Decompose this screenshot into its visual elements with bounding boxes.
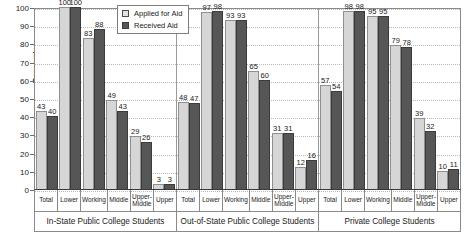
bar-received: 60 <box>259 80 270 189</box>
bar-applied: 93 <box>225 20 236 189</box>
x-axis-category-labels: TotalLowerWorkingMiddleUpper-MiddleUpper… <box>34 190 461 212</box>
bar-received: 40 <box>47 116 58 189</box>
bar-category: 6560 <box>248 9 272 189</box>
bar-value-label: 47 <box>190 95 198 103</box>
y-tick-label: 90 <box>20 22 29 31</box>
x-axis-tick-label: Middle <box>391 190 414 211</box>
bar-applied: 49 <box>106 100 117 189</box>
x-axis-tick-label: Lower <box>199 190 222 211</box>
bar-value-label: 78 <box>403 39 411 47</box>
bar-applied: 43 <box>36 111 47 189</box>
bar-received: 16 <box>306 160 317 189</box>
bar-value-label: 97 <box>203 4 211 12</box>
bar-pair: 3932 <box>414 118 436 189</box>
bar-pair: 33 <box>153 184 175 189</box>
x-axis-tick-label: Working <box>364 190 391 211</box>
bar-value-label: 100 <box>69 0 82 7</box>
bar-pair: 9898 <box>343 11 365 189</box>
x-axis-tick-label: Upper <box>153 190 176 211</box>
bar-pair: 9595 <box>367 16 389 189</box>
bar-received: 98 <box>354 11 365 189</box>
legend-swatch-applied-icon <box>122 10 129 17</box>
x-axis-tick-label: Lower <box>341 190 364 211</box>
bar-group: 434010010083884943292633 <box>35 9 176 189</box>
y-tick-label: 60 <box>20 76 29 85</box>
x-axis-tick-label: Upper <box>295 190 318 211</box>
y-tick-label: 0 <box>25 186 29 195</box>
legend-item-received: Received Aid <box>122 21 182 30</box>
bar-value-label: 83 <box>84 30 92 38</box>
bar-pair: 4340 <box>36 111 58 189</box>
bar-value-label: 11 <box>450 161 458 169</box>
y-tick-label: 30 <box>20 131 29 140</box>
x-axis-tick-label: Middle <box>249 190 272 211</box>
bar-received: 78 <box>401 47 412 189</box>
bar-applied: 97 <box>201 12 212 189</box>
x-axis-tick-label: Upper-Middle <box>272 190 295 211</box>
bar-groups: 4340100100838849432926334847979893936560… <box>35 9 460 189</box>
bar-category: 1216 <box>295 9 319 189</box>
bar-value-label: 98 <box>214 3 222 11</box>
bar-value-label: 49 <box>108 92 116 100</box>
bar-value-label: 54 <box>332 83 340 91</box>
chart-legend: Applied for Aid Received Aid <box>117 5 189 34</box>
bar-received: 95 <box>378 16 389 189</box>
x-axis-group-title: Private College Students <box>318 212 460 231</box>
bar-category: 3131 <box>271 9 295 189</box>
bar-value-label: 60 <box>261 72 269 80</box>
x-axis-tick-label: Middle <box>107 190 130 211</box>
bar-value-label: 29 <box>131 128 139 136</box>
bar-received: 26 <box>141 142 152 189</box>
bar-pair: 100100 <box>59 7 81 189</box>
x-axis-tick-label: Working <box>222 190 249 211</box>
y-tick-label: 20 <box>20 149 29 158</box>
bar-applied: 65 <box>248 71 259 189</box>
bar-value-label: 31 <box>284 125 292 133</box>
bar-applied: 79 <box>390 45 401 189</box>
bar-pair: 4847 <box>178 102 200 189</box>
x-axis-group: TotalLowerWorkingMiddleUpper-MiddleUpper <box>176 190 318 211</box>
bar-pair: 1216 <box>295 160 317 189</box>
bar-pair: 5754 <box>320 85 342 189</box>
bar-pair: 7978 <box>390 45 412 189</box>
x-axis-tick-label: Upper-Middle <box>130 190 153 211</box>
bar-category: 9798 <box>201 9 225 189</box>
x-axis-group-title: Out-of-State Public College Students <box>176 212 318 231</box>
legend-item-applied: Applied for Aid <box>122 9 182 18</box>
bar-category: 33 <box>153 9 177 189</box>
x-axis-tick-label: Working <box>80 190 107 211</box>
y-tick-label: 40 <box>20 113 29 122</box>
bar-category: 4340 <box>35 9 59 189</box>
bar-pair: 3131 <box>272 133 294 189</box>
bar-pair: 9798 <box>201 11 223 189</box>
bar-category: 9595 <box>366 9 390 189</box>
bar-category: 2926 <box>129 9 153 189</box>
bar-received: 31 <box>283 133 294 189</box>
bar-group: 575498989595797839321011 <box>318 9 460 189</box>
bar-pair: 2926 <box>130 136 152 189</box>
bar-pair: 6560 <box>248 71 270 189</box>
bar-category: 3932 <box>413 9 437 189</box>
bar-value-label: 40 <box>48 108 56 116</box>
bar-category: 4943 <box>106 9 130 189</box>
bar-pair: 8388 <box>83 29 105 189</box>
x-axis-tick-label: Upper-Middle <box>414 190 437 211</box>
bar-value-label: 39 <box>415 110 423 118</box>
y-tick-label: 80 <box>20 40 29 49</box>
bar-value-label: 57 <box>321 77 329 85</box>
bar-category: 100100 <box>59 9 83 189</box>
bar-received: 11 <box>448 169 459 189</box>
bar-value-label: 48 <box>179 94 187 102</box>
bar-value-label: 12 <box>297 159 305 167</box>
legend-label-received: Received Aid <box>134 21 178 30</box>
bar-received: 100 <box>70 7 81 189</box>
bar-applied: 48 <box>178 102 189 189</box>
x-axis-group-titles: In-State Public College StudentsOut-of-S… <box>34 212 461 232</box>
x-axis-tick-label: Total <box>177 190 199 211</box>
bar-category: 8388 <box>82 9 106 189</box>
bar-value-label: 26 <box>142 134 150 142</box>
bar-applied: 29 <box>130 136 141 189</box>
bar-applied: 98 <box>343 11 354 189</box>
y-tick-label: 70 <box>20 58 29 67</box>
bar-applied: 39 <box>414 118 425 189</box>
